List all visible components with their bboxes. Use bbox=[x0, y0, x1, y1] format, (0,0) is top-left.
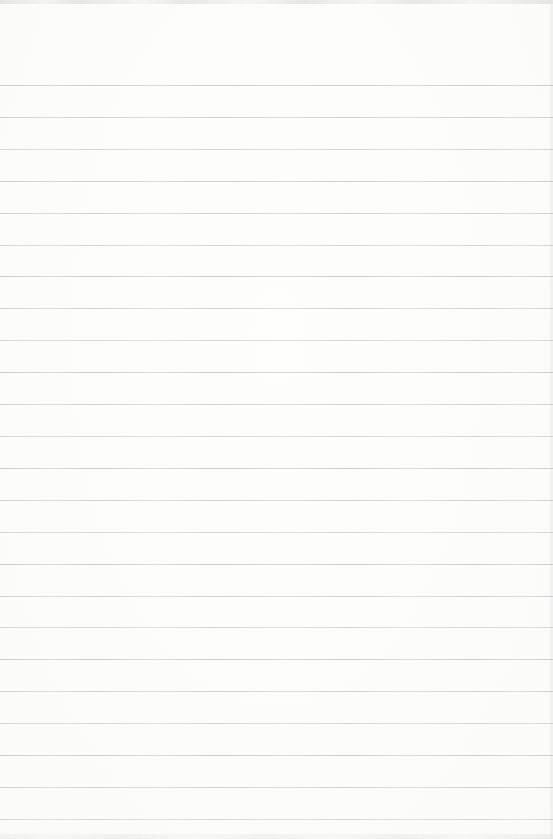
ruled-line bbox=[0, 117, 553, 118]
ruled-line bbox=[0, 723, 553, 724]
ruled-line bbox=[0, 276, 553, 277]
ruled-line bbox=[0, 468, 553, 469]
ruled-line bbox=[0, 149, 553, 150]
ruling-layer bbox=[0, 0, 553, 839]
ruled-line bbox=[0, 596, 553, 597]
ruled-line bbox=[0, 627, 553, 628]
ruled-line bbox=[0, 500, 553, 501]
ruled-line bbox=[0, 308, 553, 309]
ruled-line bbox=[0, 691, 553, 692]
ruled-line bbox=[0, 659, 553, 660]
ruled-line bbox=[0, 85, 553, 86]
ruled-line bbox=[0, 404, 553, 405]
notebook-page bbox=[0, 0, 553, 839]
ruled-line bbox=[0, 245, 553, 246]
ruled-line bbox=[0, 755, 553, 756]
ruled-line bbox=[0, 213, 553, 214]
ruled-line bbox=[0, 532, 553, 533]
ruled-line bbox=[0, 372, 553, 373]
ruled-line bbox=[0, 340, 553, 341]
ruled-line bbox=[0, 564, 553, 565]
page-bottom-edge-shading bbox=[0, 834, 553, 839]
ruled-line bbox=[0, 436, 553, 437]
ruled-line bbox=[0, 819, 553, 820]
ruled-line bbox=[0, 787, 553, 788]
ruled-line bbox=[0, 181, 553, 182]
